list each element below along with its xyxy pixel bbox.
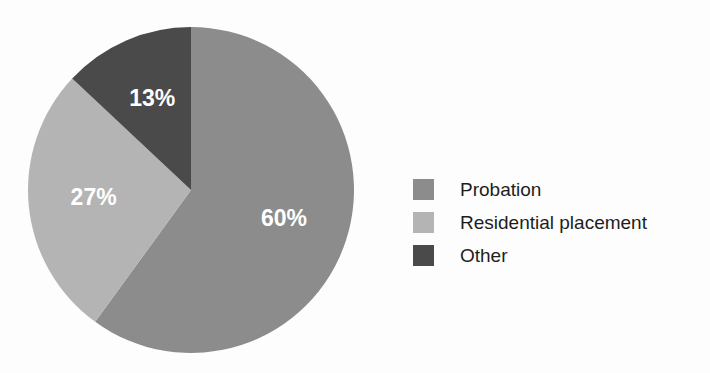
legend-label-probation: Probation — [460, 180, 541, 199]
legend-item-other[interactable]: Other — [413, 239, 693, 272]
legend-swatch-residential-placement — [413, 212, 434, 233]
chart-legend: Probation Residential placement Other — [413, 173, 693, 272]
legend-item-probation[interactable]: Probation — [413, 173, 693, 206]
legend-label-other: Other — [460, 246, 508, 265]
pie-chart-graphic: 60% 27% 13% — [28, 27, 354, 353]
legend-swatch-other — [413, 245, 434, 266]
pie-slice-label-probation: 60% — [261, 205, 307, 231]
legend-label-residential-placement: Residential placement — [460, 213, 647, 232]
pie-slice-label-other: 13% — [129, 85, 175, 111]
legend-swatch-probation — [413, 179, 434, 200]
pie-chart-figure: 60% 27% 13% Probation Residential placem… — [0, 0, 710, 373]
pie-slice-label-residential-placement: 27% — [71, 184, 117, 210]
pie-svg: 60% 27% 13% — [28, 27, 354, 353]
legend-item-residential-placement[interactable]: Residential placement — [413, 206, 693, 239]
